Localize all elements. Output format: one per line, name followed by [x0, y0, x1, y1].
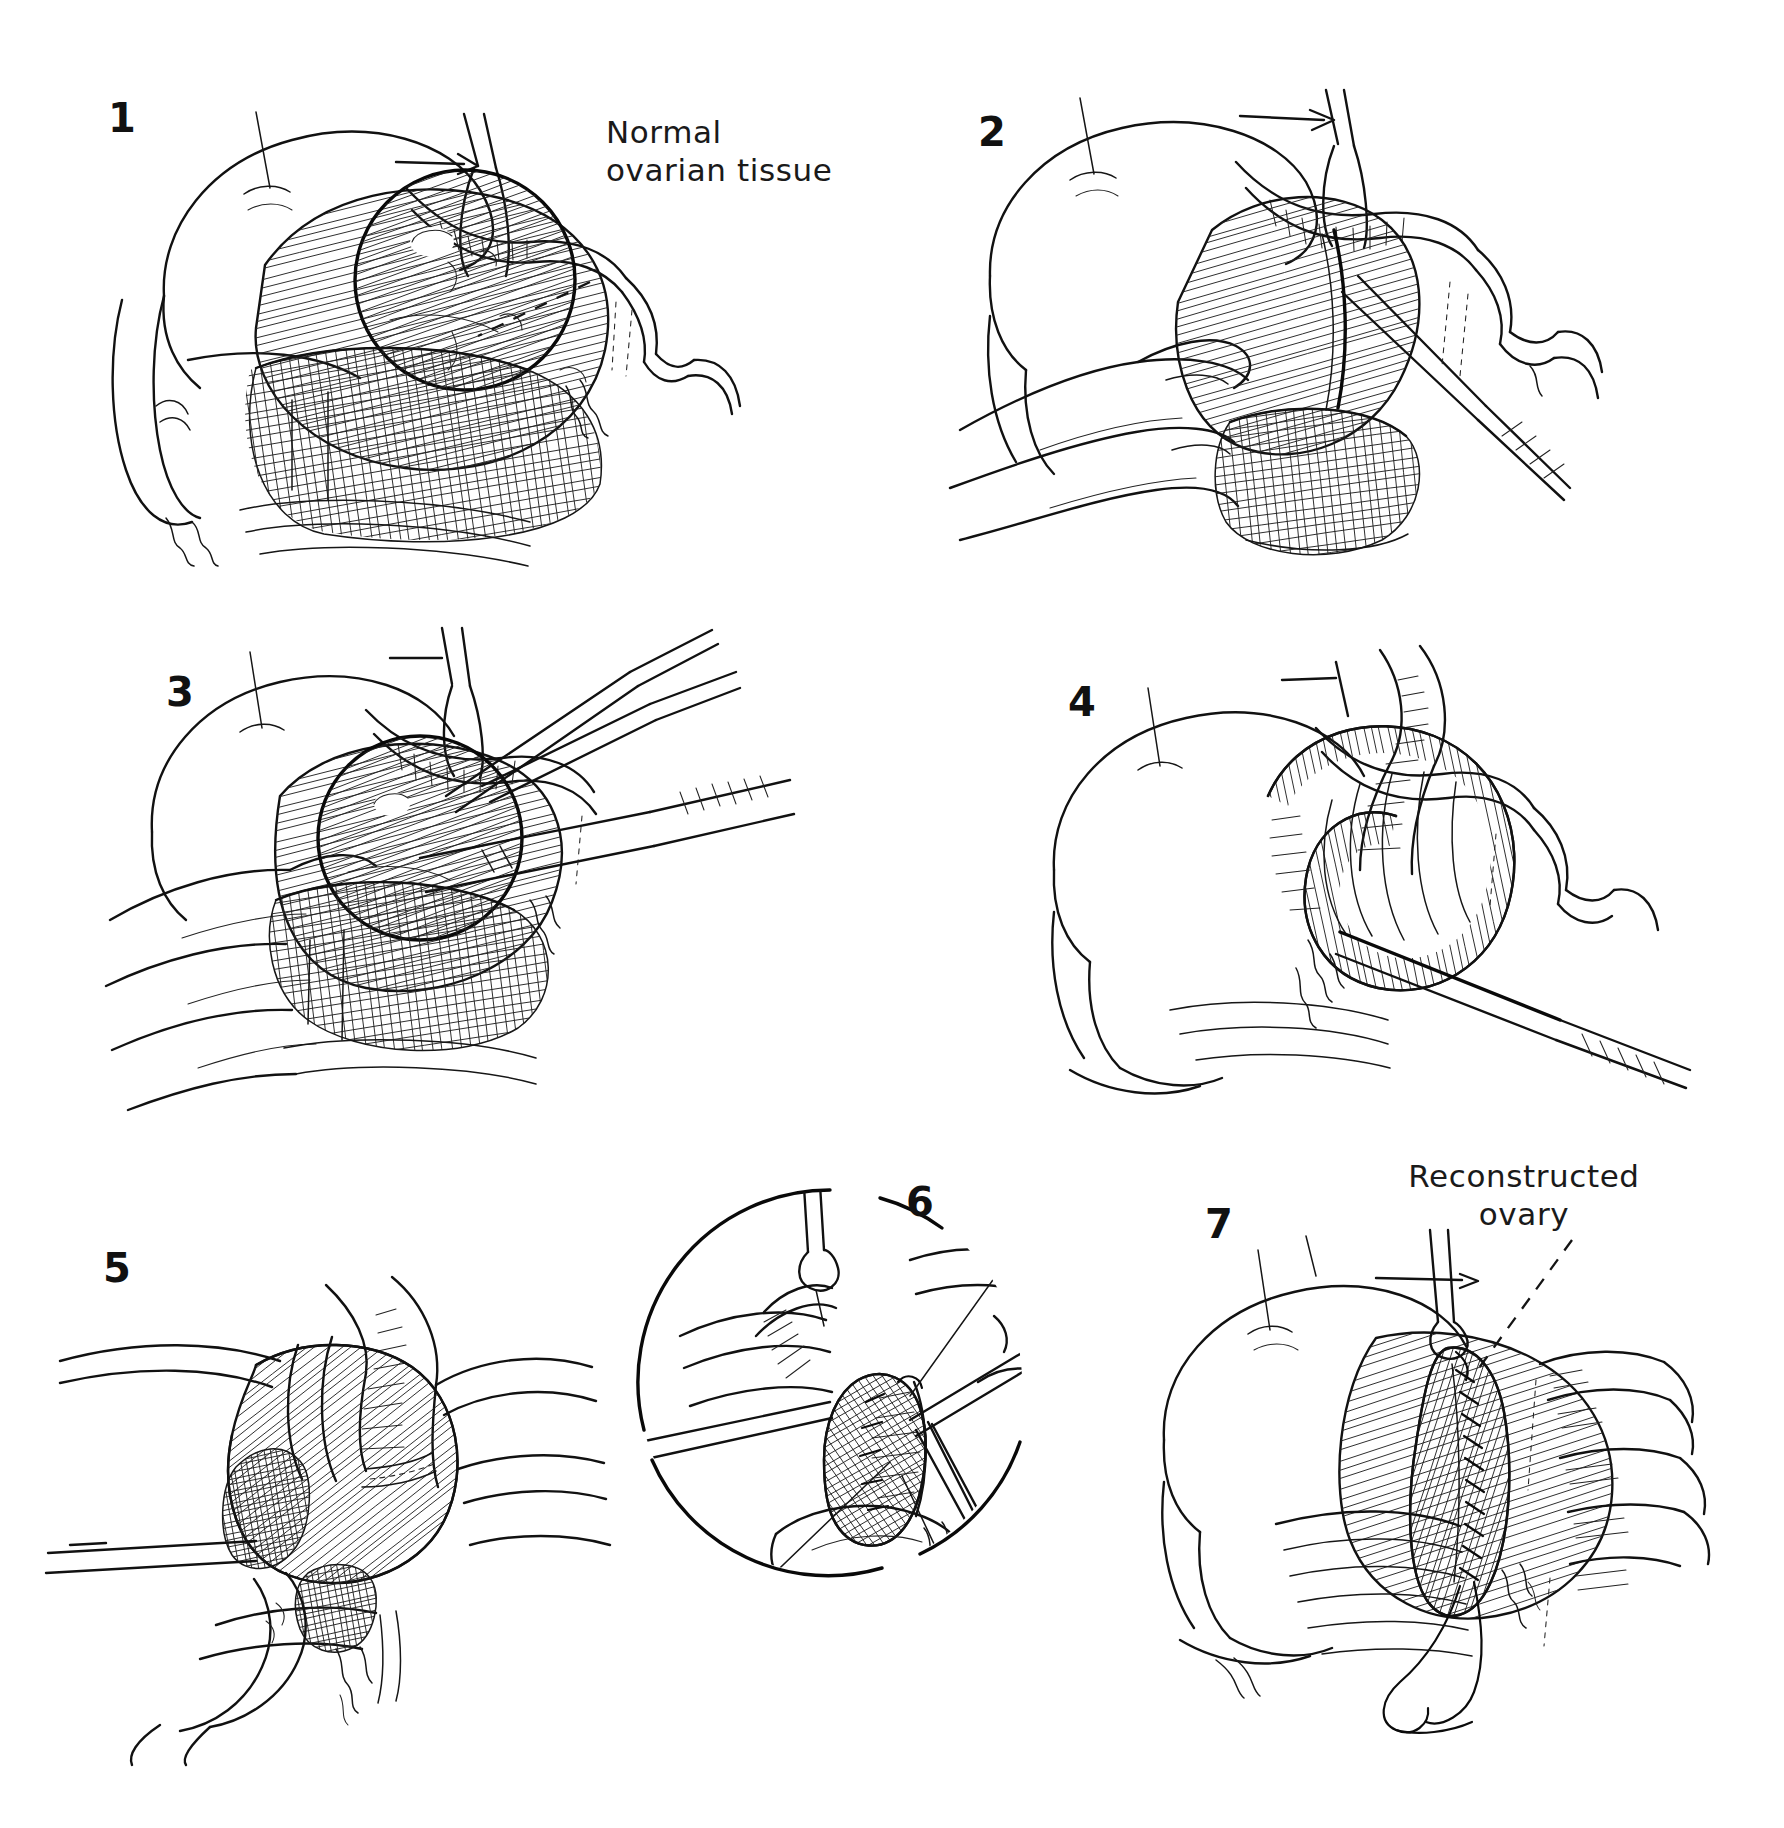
surgical-illustration-plate: 1 Normal ovarian tissue: [0, 0, 1784, 1828]
panel-number-4: 4: [1068, 682, 1096, 722]
panel-number-3: 3: [166, 672, 194, 712]
panel-7-figure: [1130, 1230, 1750, 1750]
panel-number-1: 1: [108, 98, 136, 138]
panel-number-2: 2: [978, 112, 1006, 152]
panel-number-7: 7: [1205, 1204, 1233, 1244]
callout-reconstructed-ovary: Reconstructed ovary: [1404, 1158, 1644, 1234]
panel-6-figure-inset: [580, 1130, 1080, 1630]
panel-5-figure: [40, 1255, 660, 1765]
callout-normal-ovarian-tissue: Normal ovarian tissue: [606, 114, 832, 190]
panel-number-5: 5: [103, 1248, 131, 1288]
panel-number-6: 6: [906, 1182, 934, 1222]
panel-3-figure: [90, 600, 830, 1130]
panel-4-figure: [1000, 620, 1700, 1120]
panel-2-figure: [930, 70, 1630, 570]
